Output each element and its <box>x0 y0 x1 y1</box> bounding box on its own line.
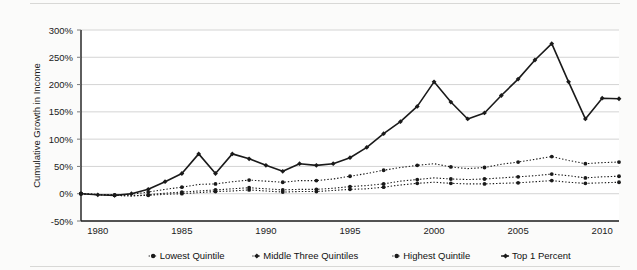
data-point <box>483 182 487 186</box>
y-tick-label-250: 250% <box>49 52 74 63</box>
data-point <box>415 181 419 185</box>
data-point <box>180 190 184 194</box>
legend-marker-symbol <box>395 254 399 258</box>
data-point <box>516 181 520 185</box>
data-point <box>348 174 352 178</box>
data-point <box>516 160 520 164</box>
chart-figure: 300%250%200%150%100%50%0%-50%19801985199… <box>0 0 637 270</box>
y-tick-label-300: 300% <box>49 25 74 36</box>
legend-item-0[interactable]: Lowest Quintile <box>149 250 225 261</box>
data-point <box>550 172 554 176</box>
y-axis-ticks: 300%250%200%150%100%50%0%-50% <box>49 25 81 227</box>
y-tick-label--50: -50% <box>51 216 74 227</box>
data-point <box>449 165 453 169</box>
data-point <box>516 175 520 179</box>
chart-legend: Lowest QuintileMiddle Three QuintilesHig… <box>149 250 571 261</box>
data-point <box>583 162 587 166</box>
legend-marker-symbol <box>503 253 508 258</box>
data-point <box>550 155 554 159</box>
y-tick-label-0: 0% <box>59 188 73 199</box>
data-point <box>583 176 587 180</box>
top-divider <box>30 3 620 4</box>
data-point <box>281 180 285 184</box>
data-point <box>247 186 251 190</box>
y-tick-label-150: 150% <box>49 106 74 117</box>
data-point <box>281 188 285 192</box>
data-point <box>180 185 184 189</box>
legend-marker-symbol <box>254 253 259 258</box>
legend-item-2[interactable]: Highest Quintile <box>392 250 470 261</box>
data-point <box>449 177 453 181</box>
data-point <box>617 160 621 164</box>
x-tick-label-2010: 2010 <box>592 225 613 236</box>
data-point <box>382 168 386 172</box>
legend-label: Top 1 Percent <box>512 250 571 261</box>
x-tick-label-2005: 2005 <box>508 225 529 236</box>
data-point <box>415 178 419 182</box>
y-tick-label-200: 200% <box>49 79 74 90</box>
line-chart: 300%250%200%150%100%50%0%-50%19801985199… <box>0 0 637 270</box>
data-point <box>247 178 251 182</box>
x-tick-label-1980: 1980 <box>87 225 108 236</box>
data-point <box>617 174 621 178</box>
data-point <box>348 185 352 189</box>
data-point <box>214 182 218 186</box>
data-point <box>382 185 386 189</box>
legend-label: Highest Quintile <box>403 250 470 261</box>
data-point <box>550 179 554 183</box>
y-axis-title: Cumulative Growth in Income <box>31 63 42 188</box>
data-point <box>314 187 318 191</box>
data-point <box>449 181 453 185</box>
x-axis-ticks: 1980198519901995200020052010 <box>87 225 613 236</box>
data-point <box>617 180 621 184</box>
x-tick-label-1995: 1995 <box>339 225 360 236</box>
y-tick-label-50: 50% <box>54 161 74 172</box>
data-point <box>583 181 587 185</box>
x-tick-label-1985: 1985 <box>171 225 192 236</box>
legend-marker-symbol <box>151 254 155 258</box>
x-tick-label-2000: 2000 <box>423 225 444 236</box>
legend-item-1[interactable]: Middle Three Quintiles <box>252 250 358 261</box>
data-point <box>483 166 487 170</box>
data-point <box>314 179 318 183</box>
y-tick-label-100: 100% <box>49 134 74 145</box>
data-point <box>214 188 218 192</box>
legend-label: Middle Three Quintiles <box>263 250 358 261</box>
legend-label: Lowest Quintile <box>160 250 225 261</box>
plot-background <box>81 30 619 221</box>
data-point <box>483 177 487 181</box>
bottom-divider <box>30 266 620 267</box>
x-tick-label-1990: 1990 <box>255 225 276 236</box>
data-point <box>382 182 386 186</box>
data-point <box>415 163 419 167</box>
legend-item-3[interactable]: Top 1 Percent <box>501 250 571 261</box>
